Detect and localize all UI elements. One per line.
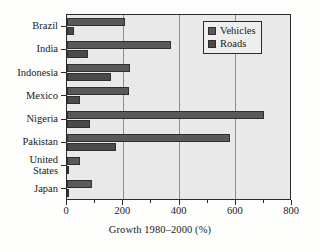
category-label-united-states: United States (0, 154, 58, 176)
category-label-india: India (0, 43, 58, 54)
x-tick-minor-500 (207, 200, 208, 203)
bar-united-states-roads (67, 166, 69, 174)
legend[interactable]: Vehicles Roads (203, 21, 262, 54)
y-tick (61, 72, 67, 73)
category-label-pakistan: Pakistan (0, 136, 58, 147)
x-tick-label-200: 200 (102, 205, 142, 216)
bar-indonesia-roads (67, 73, 111, 81)
x-tick-label-800: 800 (271, 205, 311, 216)
legend-swatch-roads-icon (208, 40, 216, 48)
bar-mexico-vehicles (67, 87, 129, 95)
gridline-400 (179, 15, 180, 199)
bar-japan-vehicles (67, 180, 92, 188)
category-label-indonesia: Indonesia (0, 67, 58, 78)
bar-nigeria-vehicles (67, 111, 264, 119)
x-tick-label-400: 400 (159, 205, 199, 216)
bar-pakistan-roads (67, 143, 116, 151)
y-tick (61, 142, 67, 143)
y-tick (61, 26, 67, 27)
bar-india-roads (67, 50, 88, 58)
category-label-mexico: Mexico (0, 90, 58, 101)
x-tick-minor-100 (94, 200, 95, 203)
y-tick (61, 49, 67, 50)
legend-swatch-vehicles-icon (208, 27, 216, 35)
legend-label-vehicles: Vehicles (220, 25, 256, 36)
legend-item-roads[interactable]: Roads (208, 37, 256, 50)
y-tick (61, 165, 67, 166)
legend-item-vehicles[interactable]: Vehicles (208, 24, 256, 37)
bar-mexico-roads (67, 96, 80, 104)
bar-united-states-vehicles (67, 157, 80, 165)
bar-india-vehicles (67, 41, 171, 49)
x-tick-label-0: 0 (46, 205, 86, 216)
x-axis-title: Growth 1980–2000 (%) (0, 224, 320, 235)
y-tick (61, 119, 67, 120)
bar-indonesia-vehicles (67, 64, 130, 72)
category-label-nigeria: Nigeria (0, 113, 58, 124)
y-tick (61, 188, 67, 189)
bar-chart: BrazilIndiaIndonesiaMexicoNigeriaPakista… (0, 0, 320, 252)
bar-brazil-vehicles (67, 18, 125, 26)
bar-brazil-roads (67, 27, 74, 35)
category-label-japan: Japan (0, 183, 58, 194)
bar-japan-roads (67, 189, 69, 197)
x-tick-minor-700 (263, 200, 264, 203)
bar-pakistan-vehicles (67, 134, 230, 142)
y-tick (61, 95, 67, 96)
bar-nigeria-roads (67, 120, 90, 128)
category-label-brazil: Brazil (0, 20, 58, 31)
x-tick-label-600: 600 (215, 205, 255, 216)
legend-label-roads: Roads (220, 38, 246, 49)
x-tick-minor-300 (150, 200, 151, 203)
